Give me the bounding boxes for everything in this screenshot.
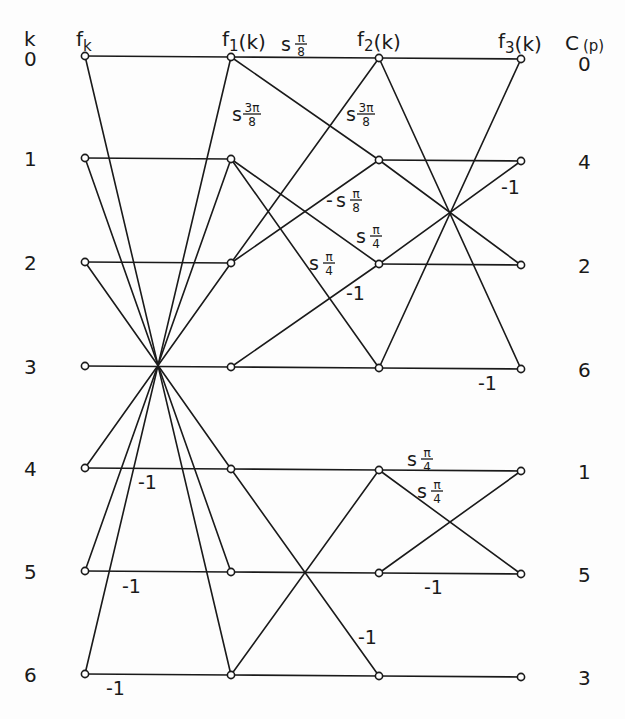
edge-f2-5-to-f3-5 bbox=[379, 573, 521, 574]
node-fk-1 bbox=[81, 154, 88, 161]
twiddle-denominator: 8 bbox=[248, 115, 256, 129]
row-label-k: 0 bbox=[24, 47, 37, 71]
twiddle-base: s bbox=[356, 225, 366, 247]
edge-f1-3-to-f2-3 bbox=[231, 367, 379, 368]
twiddle-base: s bbox=[346, 103, 356, 125]
edge-f2-0-to-f3-0 bbox=[379, 58, 521, 59]
twiddle-denominator: 8 bbox=[297, 45, 305, 59]
twiddle-base: s bbox=[281, 33, 291, 55]
edge-f2-2-to-f3-2 bbox=[379, 264, 521, 265]
node-fk-2 bbox=[81, 258, 88, 265]
row-label-k: 2 bbox=[24, 251, 37, 275]
twiddle-numerator: 3π bbox=[245, 101, 260, 115]
twiddle-sign: - bbox=[326, 189, 333, 211]
node-f2-5 bbox=[375, 569, 382, 576]
output-label-p: 5 bbox=[578, 563, 591, 587]
node-f2-6 bbox=[375, 672, 382, 679]
node-f3-4 bbox=[517, 467, 524, 474]
row-label-k: 3 bbox=[24, 355, 37, 379]
column-header-f3: f3(k) bbox=[498, 29, 542, 57]
output-label-p: 3 bbox=[578, 666, 591, 690]
edge-label-minus-one: -1 bbox=[478, 372, 497, 394]
edge-label-twiddle: sπ8 bbox=[281, 31, 307, 59]
output-label-p: 4 bbox=[578, 150, 591, 174]
column-header-fk: fk bbox=[76, 27, 92, 55]
node-f3-6 bbox=[517, 673, 524, 680]
node-f1-6 bbox=[227, 671, 234, 678]
column-header-f1: f1(k) bbox=[222, 27, 266, 55]
edge-fk-0-to-f1-0 bbox=[85, 56, 231, 57]
edge-label-minus-one: -1 bbox=[106, 677, 125, 699]
node-f3-1 bbox=[517, 157, 524, 164]
node-f3-3 bbox=[517, 365, 524, 372]
row-label-k: 5 bbox=[24, 560, 37, 584]
node-f3-5 bbox=[517, 570, 524, 577]
twiddle-numerator: π bbox=[297, 31, 304, 45]
twiddle-numerator: π bbox=[372, 223, 379, 237]
node-f1-5 bbox=[227, 568, 234, 575]
edge-f2-1-to-f3-1 bbox=[379, 160, 521, 161]
edge-fk-2-to-f1-2 bbox=[85, 262, 231, 263]
edge-label-minus-one: -1 bbox=[424, 576, 443, 598]
twiddle-base: s bbox=[417, 480, 427, 502]
twiddle-base: s bbox=[336, 189, 346, 211]
edge-label-minus-one: -1 bbox=[358, 626, 377, 648]
twiddle-denominator: 8 bbox=[362, 115, 370, 129]
node-f2-0 bbox=[375, 54, 382, 61]
twiddle-denominator: 4 bbox=[433, 492, 441, 506]
node-f2-4 bbox=[375, 466, 382, 473]
twiddle-base: s bbox=[407, 448, 417, 470]
edge-fk-5-to-f1-5 bbox=[85, 571, 231, 572]
edge-f2-3-to-f3-3 bbox=[379, 368, 521, 369]
node-f1-2 bbox=[227, 259, 234, 266]
edge-fk-4-to-f1-4 bbox=[85, 468, 231, 469]
twiddle-denominator: 8 bbox=[352, 201, 360, 215]
edge-f1-0-to-f2-0 bbox=[231, 57, 379, 58]
node-f1-4 bbox=[227, 465, 234, 472]
node-f2-3 bbox=[375, 364, 382, 371]
signal-flow-diagram: sπ8s3π8s3π8-sπ8sπ4sπ4-1-1-1-1-1-1sπ4sπ4-… bbox=[0, 0, 625, 719]
edge-label-minus-one: -1 bbox=[122, 575, 141, 597]
output-label-p: 0 bbox=[578, 52, 591, 76]
node-f2-2 bbox=[375, 260, 382, 267]
twiddle-denominator: 4 bbox=[325, 264, 333, 278]
edge-f2-6-to-f3-6 bbox=[379, 676, 521, 677]
node-fk-6 bbox=[81, 670, 88, 677]
node-fk-3 bbox=[81, 362, 88, 369]
row-label-k: 4 bbox=[24, 457, 37, 481]
edge-label-twiddle: -sπ8 bbox=[326, 187, 362, 215]
column-header-f2: f2(k) bbox=[357, 27, 401, 55]
node-f3-0 bbox=[517, 55, 524, 62]
row-label-k: 6 bbox=[24, 663, 37, 687]
twiddle-numerator: π bbox=[325, 250, 332, 264]
header-layer: k0123456fkf1(k)f2(k)f3(k)C(p)0426153 bbox=[24, 27, 604, 690]
twiddle-numerator: π bbox=[352, 187, 359, 201]
twiddle-denominator: 4 bbox=[423, 460, 431, 474]
edge-label-twiddle: sπ4 bbox=[309, 250, 335, 278]
edge-label-twiddle: sπ4 bbox=[356, 223, 382, 251]
edge-f1-3-to-f2-2 bbox=[231, 264, 379, 367]
edge-label-twiddle: s3π8 bbox=[346, 101, 375, 129]
node-f2-1 bbox=[375, 156, 382, 163]
label-layer: sπ8s3π8s3π8-sπ8sπ4sπ4-1-1-1-1-1-1sπ4sπ4-… bbox=[106, 31, 520, 699]
butterfly-graph: sπ8s3π8s3π8-sπ8sπ4sπ4-1-1-1-1-1-1sπ4sπ4-… bbox=[0, 0, 625, 719]
output-label-p: 2 bbox=[578, 254, 591, 278]
edge-f2-4-to-f3-4 bbox=[379, 470, 521, 471]
edge-label-twiddle: s3π8 bbox=[232, 101, 261, 129]
output-label-p: 6 bbox=[578, 358, 591, 382]
node-f3-2 bbox=[517, 261, 524, 268]
edge-fk-1-to-f1-1 bbox=[85, 158, 231, 159]
edge-label-minus-one: -1 bbox=[138, 471, 157, 493]
edge-label-twiddle: sπ4 bbox=[417, 478, 443, 506]
twiddle-base: s bbox=[309, 252, 319, 274]
twiddle-denominator: 4 bbox=[372, 237, 380, 251]
node-f1-1 bbox=[227, 155, 234, 162]
node-fk-5 bbox=[81, 567, 88, 574]
node-fk-4 bbox=[81, 464, 88, 471]
edge-label-minus-one: -1 bbox=[346, 282, 365, 304]
edge-fk-6-to-f1-6 bbox=[85, 674, 231, 675]
output-label-p: 1 bbox=[578, 460, 591, 484]
edge-f1-6-to-f2-6 bbox=[231, 675, 379, 676]
twiddle-numerator: π bbox=[433, 478, 440, 492]
edge-layer bbox=[85, 56, 521, 677]
